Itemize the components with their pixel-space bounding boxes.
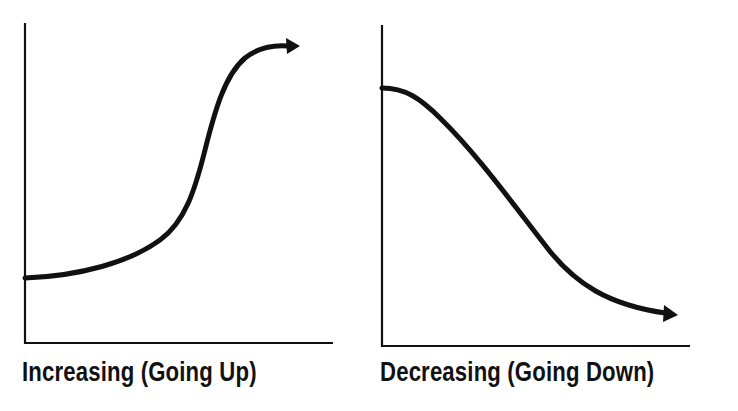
decreasing-graph: [381, 25, 690, 347]
diagram-canvas: [0, 0, 738, 411]
decreasing-label: Decreasing (Going Down): [380, 357, 654, 388]
increasing-label: Increasing (Going Up): [22, 357, 257, 388]
arrow-right-icon: [286, 38, 300, 54]
increasing-graph: [24, 23, 333, 344]
arrow-right-icon: [663, 305, 678, 322]
increasing-curve: [25, 46, 288, 278]
decreasing-curve: [382, 88, 665, 313]
